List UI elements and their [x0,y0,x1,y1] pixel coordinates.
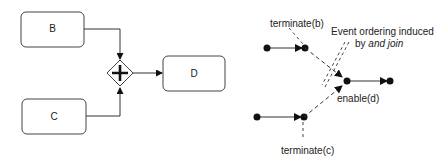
figure-canvas: B C D [0,0,445,161]
leader-terminate-b [289,28,303,44]
node-c-start [254,114,261,121]
task-b-label: B [49,23,56,34]
flow-b-to-gateway [84,29,120,59]
bpmn-diagram: B C D [21,12,225,134]
task-d-label: D [190,68,197,79]
parallel-gateway [107,60,133,86]
task-c-label: C [50,111,57,122]
node-d-end [387,78,394,85]
flow-c-to-gateway [86,88,120,116]
annotation-italic: and join [368,38,403,49]
node-b-start [264,45,271,52]
label-enable-d: enable(d) [337,93,379,104]
task-c: C [22,99,86,134]
induced-edge-b-to-d [305,48,342,77]
label-terminate-b: terminate(b) [270,18,324,29]
label-terminate-c: terminate(c) [281,145,334,156]
event-ordering-diagram: terminate(b) terminate(c) enable(d) Even… [254,18,434,156]
annotation-line-1: Event ordering induced [331,26,434,37]
task-d: D [163,56,225,91]
leader-annotation-1 [322,42,345,85]
annotation-line-2: by and join [355,38,404,49]
node-enable-d [344,78,351,85]
task-b: B [21,12,84,47]
annotation-prefix: by [355,38,368,49]
